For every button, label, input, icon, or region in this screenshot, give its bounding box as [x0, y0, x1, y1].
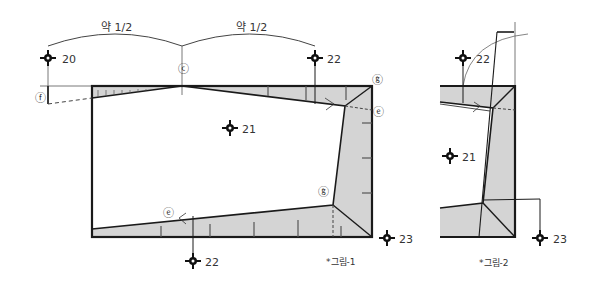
marker-icon: [40, 50, 56, 66]
point-g-inner: ⓖ: [318, 186, 329, 199]
marker-label-23: 23: [553, 233, 567, 246]
marker-icon: [185, 253, 201, 269]
marker-label-22: 22: [476, 53, 490, 66]
point-g-top: ⓖ: [372, 74, 383, 87]
figure-1: 약 1/2 약 1/2 ⓒ ⓕ ⓖ ⓔ ⓖ ⓔ 20 22 21 22 23 *…: [35, 20, 414, 269]
inner-outline: [92, 86, 345, 229]
arc-guide: [463, 34, 528, 86]
point-e-bottom: ⓔ: [163, 207, 174, 220]
point-e-right: ⓔ: [373, 106, 384, 119]
marker-icon: [455, 50, 471, 66]
marker-label-20: 20: [62, 53, 76, 66]
span-label-right: 약 1/2: [236, 20, 267, 34]
span-label-left: 약 1/2: [101, 20, 132, 34]
span-arc-left: [48, 34, 182, 46]
marker-icon: [307, 50, 323, 66]
marker-icon: [442, 148, 458, 164]
caption-figure-1: *그림-1: [326, 256, 355, 267]
caption-figure-2: *그림-2: [479, 257, 508, 268]
f-dashed: [48, 98, 92, 104]
marker-icon: [532, 230, 548, 246]
marker-label-21: 21: [462, 151, 476, 164]
point-f: ⓕ: [35, 92, 46, 105]
span-arc-right: [182, 34, 315, 46]
marker-label-22-top: 22: [327, 53, 341, 66]
pattern-diagram: 약 1/2 약 1/2 ⓒ ⓕ ⓖ ⓔ ⓖ ⓔ 20 22 21 22 23 *…: [0, 0, 598, 291]
marker-label-23: 23: [399, 233, 413, 246]
marker-label-21: 21: [242, 123, 256, 136]
marker-icon: [222, 120, 238, 136]
point-c: ⓒ: [178, 63, 189, 76]
marker-icon: [379, 230, 395, 246]
marker-label-22-bottom: 22: [205, 256, 219, 269]
figure-2: 22 21 23 *그림-2: [440, 22, 567, 268]
shade-bottom: [92, 205, 372, 237]
